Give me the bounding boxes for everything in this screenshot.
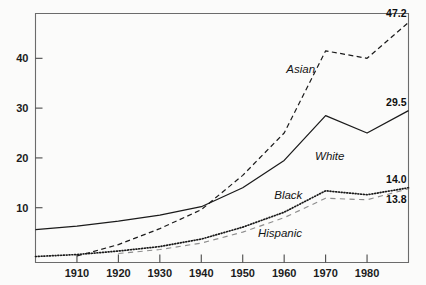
series-line-black (36, 188, 409, 257)
x-tick-label-1960: 1960 (272, 267, 296, 279)
data-series-group (36, 22, 409, 256)
y-tick-label-30: 30 (16, 102, 28, 114)
x-tick-label-1950: 1950 (230, 267, 254, 279)
series-line-asian (77, 22, 409, 256)
axis-frame (36, 14, 409, 263)
y-tick-label-40: 40 (16, 52, 28, 64)
chart-canvas: 10203040 1910192019301940195019601970198… (0, 0, 426, 285)
end-value-label-group: 47.229.514.013.8 (386, 7, 407, 204)
end-value-label-asian: 47.2 (386, 7, 407, 19)
x-axis-ticks: 19101920193019401950196019701980 (65, 255, 380, 279)
series-line-white (36, 111, 409, 230)
x-tick-label-1980: 1980 (355, 267, 379, 279)
series-label-white: White (315, 150, 344, 162)
end-value-label-hispanic: 13.8 (386, 193, 407, 205)
series-label-asian: Asian (285, 63, 315, 75)
x-tick-label-1920: 1920 (106, 267, 130, 279)
x-tick-label-1930: 1930 (148, 267, 172, 279)
series-label-black: Black (274, 189, 303, 201)
x-tick-label-1940: 1940 (189, 267, 213, 279)
series-line-hispanic (118, 189, 408, 254)
line-chart-figure: 10203040 1910192019301940195019601970198… (0, 0, 426, 285)
end-value-label-white: 29.5 (386, 96, 407, 108)
series-label-hispanic: Hispanic (258, 227, 302, 239)
x-tick-label-1910: 1910 (65, 267, 89, 279)
y-axis-ticks: 10203040 (16, 52, 42, 213)
x-tick-label-1970: 1970 (313, 267, 337, 279)
series-label-group: AsianWhiteBlackHispanic (258, 63, 344, 238)
end-value-label-black: 14.0 (386, 173, 407, 185)
y-tick-label-10: 10 (16, 202, 28, 214)
y-tick-label-20: 20 (16, 152, 28, 164)
plot-frame (36, 14, 409, 263)
